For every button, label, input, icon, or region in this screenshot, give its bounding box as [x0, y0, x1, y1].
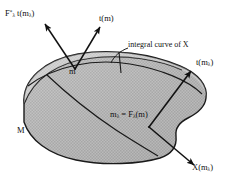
label-point-m: m [69, 67, 76, 76]
label-tangent-at-m: t(m) [99, 14, 114, 23]
manifold-integral-curve-figure: F*λ t(mλ) t(m) integral curve of X t(mλ)… [0, 0, 228, 184]
xmlam-tail: ) [210, 162, 213, 172]
label-manifold-M: M [17, 126, 25, 135]
label-image-point: mλ = Fλ(m) [110, 110, 148, 119]
label-vector-field-X-mlambda: X(mλ) [192, 163, 213, 172]
mlam-tail: (m) [136, 109, 148, 119]
tmlam-tail: ) [210, 57, 213, 67]
label-pushforward-tangent: F*λ t(mλ) [5, 9, 34, 18]
pushforward-body: t(m [17, 8, 29, 18]
mlam-head: m [110, 109, 117, 119]
tmlam-head: t(m [196, 57, 208, 67]
pushforward-body-tail: ) [31, 8, 34, 18]
pushforward-lambda: λ [12, 12, 15, 18]
xmlam-head: X(m [192, 162, 208, 172]
point-mlambda-dot [148, 126, 150, 128]
figure-canvas [0, 0, 228, 184]
label-tangent-at-mlambda: t(mλ) [196, 58, 213, 67]
label-integral-curve: integral curve of X [128, 41, 189, 49]
mlam-mid: = F [119, 109, 133, 119]
